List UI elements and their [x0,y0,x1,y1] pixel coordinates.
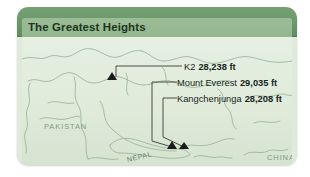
country-label-china: CHINA [267,153,292,162]
map-card: The Greatest Heights [17,7,297,165]
peak-callout-k2: K228,238 ft [184,62,236,73]
peak-name-kangchenjunga: Kangchenjunga [177,94,242,104]
peak-callout-everest: Mount Everest29,035 ft [177,78,277,89]
page-title: The Greatest Heights [28,19,146,36]
peak-height-everest: 29,035 ft [240,78,277,88]
infographic-map-card: The Greatest Heights [0,0,310,177]
peak-callout-kangchenjunga: Kangchenjunga28,208 ft [177,94,282,105]
peak-name-everest: Mount Everest [177,78,237,88]
peak-height-kangchenjunga: 28,208 ft [245,94,282,104]
peak-height-k2: 28,238 ft [198,62,235,72]
peak-name-k2: K2 [184,62,195,72]
country-label-pakistan: PAKISTAN [44,122,87,131]
